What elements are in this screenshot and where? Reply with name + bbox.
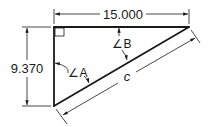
hypotenuse-label: c [124,69,131,84]
top-length-label: 15.000 [103,7,143,22]
angle-b-label: ∠B [112,37,131,51]
extension-line-c-top [191,30,200,43]
right-angle-marker [55,28,64,36]
angle-b-arc [122,50,127,60]
angle-a-arc [55,63,68,73]
triangle-diagram: 15.000 9.370 c ∠A ∠B [0,0,214,127]
dimension-line-c-upper [136,38,195,72]
angle-a-label: ∠A [68,66,87,80]
extension-line-c-bottom [56,109,67,124]
dimension-line-c-lower [63,83,118,115]
left-height-label: 9.370 [11,61,44,76]
